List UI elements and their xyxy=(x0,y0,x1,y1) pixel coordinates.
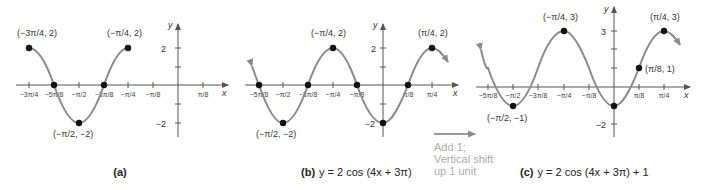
panel-b: x y 2 −2 −5π/8 −π/2 −3π/8 −π/4 −π/8 π/8 … xyxy=(245,20,458,178)
point-label: (π/8, 1) xyxy=(645,64,675,74)
x-tick: −π/2 xyxy=(276,91,291,98)
caption-b: (b)y = 2 cos (4x + 3π) xyxy=(301,166,412,178)
x-tick: −3π/8 xyxy=(95,91,114,98)
x-tick: π/4 xyxy=(427,91,438,98)
y-tick-neg2: −2 xyxy=(156,119,166,129)
x-tick: −3π/8 xyxy=(529,92,548,99)
x-tick: −π/2 xyxy=(72,91,87,98)
y-tick-2: 2 xyxy=(371,44,376,54)
x-tick: −5π/8 xyxy=(250,91,269,98)
transition-line3: up 1 unit xyxy=(434,165,476,177)
point-label: (π/4, 2) xyxy=(418,28,448,38)
point-label: (π/4, 3) xyxy=(650,12,680,22)
x-axis-label: x xyxy=(452,88,458,98)
x-axis-label: x xyxy=(221,88,227,98)
x-tick: π/8 xyxy=(198,91,209,98)
figure: x y 2 −2 −3π/4 −5π/8 −π/2 −3π/8 −π/4 −π/… xyxy=(0,0,701,190)
caption-a: (a) xyxy=(113,166,127,178)
y-tick-3: 3 xyxy=(601,27,606,37)
x-tick: −5π/8 xyxy=(45,91,64,98)
y-axis-label: y xyxy=(167,20,173,30)
x-tick: −3π/8 xyxy=(299,91,318,98)
point-label: (−π/4, 3) xyxy=(543,12,578,22)
x-tick: −3π/4 xyxy=(20,91,39,98)
x-tick: −π/4 xyxy=(557,92,572,99)
caption-c: (c)y = 2 cos (4x + 3π) + 1 xyxy=(520,166,649,178)
y-tick-2: 2 xyxy=(161,44,166,54)
x-tick: −5π/8 xyxy=(479,92,498,99)
transition-annotation: Add 1; Vertical shift up 1 unit xyxy=(434,134,493,177)
panel-a: x y 2 −2 −3π/4 −5π/8 −π/2 −3π/8 −π/4 −π/… xyxy=(16,20,228,178)
y-axis-label: y xyxy=(603,4,609,14)
y-tick-neg2: −2 xyxy=(365,119,375,129)
x-tick: π/4 xyxy=(659,92,670,99)
point-label: (−π/4, 2) xyxy=(311,28,346,38)
point-label: (−3π/4, 2) xyxy=(17,28,57,38)
point-label: (−π/4, 2) xyxy=(107,28,142,38)
x-tick: −π/4 xyxy=(326,91,341,98)
x-tick: π/8 xyxy=(634,92,645,99)
x-tick: −π/2 xyxy=(506,92,521,99)
x-tick: −π/4 xyxy=(121,91,136,98)
point-label: (−π/2, −2) xyxy=(53,129,93,139)
y-axis-label: y xyxy=(372,20,378,30)
y-tick-neg2: −2 xyxy=(596,120,606,130)
panel-c: x y 3 −2 −5π/8 −π/2 −3π/8 −π/4 −π/8 π/8 … xyxy=(476,4,690,178)
x-tick: −π/8 xyxy=(146,91,161,98)
transition-line2: Vertical shift xyxy=(434,153,493,165)
point-label: (−π/2, −2) xyxy=(256,129,296,139)
x-axis-label: x xyxy=(683,90,689,100)
x-tick: −π/8 xyxy=(582,92,597,99)
transition-line1: Add 1; xyxy=(434,141,466,153)
point-label: (−π/2, −1) xyxy=(487,113,527,123)
